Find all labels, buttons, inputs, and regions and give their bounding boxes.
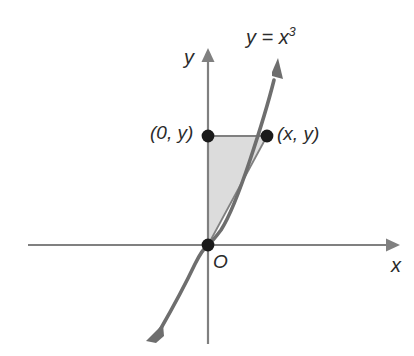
- x-axis-arrow-icon: [386, 239, 400, 252]
- point-on-y-axis: [202, 130, 215, 143]
- point-origin: [202, 239, 215, 252]
- point-label-on-curve: (x, y): [277, 124, 319, 143]
- function-label-exponent: 3: [289, 25, 296, 39]
- point-label-on-y-axis: (0, y): [150, 123, 193, 142]
- curve-arrow-down-icon: [146, 324, 164, 343]
- function-label: y = x3: [246, 26, 296, 47]
- origin-label: O: [213, 252, 228, 271]
- curve-arrow-up-icon: [272, 58, 283, 79]
- figure-canvas: [0, 0, 414, 356]
- y-axis-arrow-icon: [202, 48, 215, 62]
- math-figure: y = x3 y x O (0, y) (x, y): [0, 0, 414, 356]
- x-axis-label: x: [391, 255, 401, 275]
- y-axis-label: y: [184, 47, 194, 67]
- point-on-curve: [261, 130, 274, 143]
- function-label-base: y = x: [246, 26, 289, 48]
